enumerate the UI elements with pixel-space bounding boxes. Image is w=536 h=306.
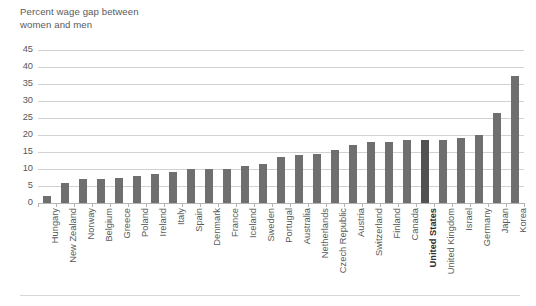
y-axis-tick-label: 15 [23,147,33,156]
bar [439,140,447,203]
x-axis-category-label: New Zealand [69,208,78,263]
bar [367,142,375,203]
x-axis-category-label: Sweden [267,208,276,242]
y-axis-tick-label: 45 [23,45,33,54]
x-axis-category-label: Finland [393,208,402,239]
x-axis-tick [506,203,507,207]
x-axis-tick [164,203,165,207]
bar [79,179,87,203]
x-axis-tick [74,203,75,207]
bar [385,142,393,203]
bar [133,176,141,203]
x-axis-category-label: Korea [519,208,528,233]
x-axis-tick [110,203,111,207]
x-axis-tick [416,203,417,207]
x-axis-tick [218,203,219,207]
bar [241,166,249,203]
y-axis-tick-label: 40 [23,62,33,71]
y-axis-tick-label: 30 [23,96,33,105]
x-axis-category-label: Portugal [285,208,294,243]
x-axis-category-label: Iceland [249,208,258,238]
x-axis-category-label: Australia [303,208,312,244]
bar [511,76,519,204]
wage-gap-bar-chart: Percent wage gap between women and men 0… [0,0,536,306]
bar [421,140,429,203]
x-axis-tick [380,203,381,207]
x-axis-category-label: Greece [123,208,132,239]
x-axis-tick [470,203,471,207]
x-axis-labels: HungaryNew ZealandNorwayBelgiumGreecePol… [38,208,524,294]
x-axis-category-label: Italy [177,208,186,225]
y-axis-tick-label: 5 [28,181,33,190]
footer-divider [20,295,520,296]
x-axis-tick [200,203,201,207]
y-axis-tick-label: 0 [28,198,33,207]
x-axis-category-label: Ireland [159,208,168,236]
x-axis-tick [434,203,435,207]
x-axis-category-label: Japan [501,208,510,233]
x-axis-tick [452,203,453,207]
x-axis-tick [272,203,273,207]
bar [43,196,51,203]
bar [205,169,213,203]
bar [493,113,501,203]
x-axis-category-label: Poland [141,208,150,237]
x-axis-category-label: United States [429,208,438,267]
bar [457,138,465,203]
x-axis-tick [254,203,255,207]
bar [295,155,303,203]
x-axis-category-label: Netherlands [321,208,330,258]
x-axis-tick [290,203,291,207]
x-axis-category-label: Israel [465,208,474,231]
x-axis-category-label: Hungary [51,208,60,243]
x-axis-category-label: United Kingdom [447,208,456,274]
y-axis-tick-label: 35 [23,79,33,88]
bar [277,157,285,203]
x-axis-tick [326,203,327,207]
plot-area: 051015202530354045 [38,50,524,203]
bar [115,178,123,204]
bar [223,169,231,203]
x-axis-tick [308,203,309,207]
x-axis-tick [92,203,93,207]
x-axis-tick [398,203,399,207]
x-axis-tick [488,203,489,207]
x-axis-category-label: Spain [195,208,204,232]
bar [313,154,321,203]
bar [151,174,159,203]
x-axis-category-label: Canada [411,208,420,241]
x-axis-category-label: Austria [357,208,366,237]
bar [259,164,267,203]
y-axis-tick-label: 25 [23,113,33,122]
x-axis-tick [38,203,39,207]
x-axis-category-label: France [231,208,240,237]
bar [169,172,177,203]
x-axis-tick [146,203,147,207]
x-axis-tick [362,203,363,207]
chart-title: Percent wage gap between women and men [20,6,350,31]
bar [349,145,357,203]
bar [475,135,483,203]
bar [61,183,69,203]
x-axis-tick [344,203,345,207]
x-axis-tick [56,203,57,207]
x-axis-tick [236,203,237,207]
x-axis-category-label: Switzerland [375,208,384,256]
x-axis-tick [128,203,129,207]
x-axis-category-label: Belgium [105,208,114,242]
x-axis-category-label: Norway [87,208,96,240]
x-axis-tick [182,203,183,207]
x-axis-category-label: Germany [483,208,492,246]
bar [97,179,105,203]
bar [403,140,411,203]
x-axis-category-label: Czech Republic [339,208,348,273]
bars-layer [38,50,524,203]
bar [331,150,339,203]
y-axis-tick-label: 10 [23,164,33,173]
x-axis-category-label: Denmark [213,208,222,246]
y-axis-tick-label: 20 [23,130,33,139]
x-axis-tick [524,203,525,207]
bar [187,169,195,203]
